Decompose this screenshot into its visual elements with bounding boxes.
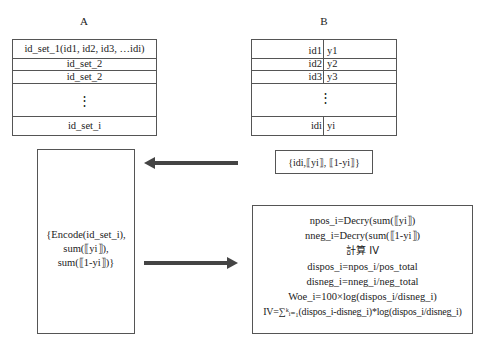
encode-box: {Encode(id_set_i), sum(⟦yi⟧), sum(⟦1-yi⟧… [37, 149, 135, 334]
id-set-row: id_set_2 [13, 71, 156, 84]
label-row: id2 y2 [252, 59, 396, 71]
party-a-label: A [74, 15, 94, 27]
encode-line: sum(⟦1-yi⟧)} [38, 256, 134, 270]
woe-formula: Woe_i=100×log(dispos_i/disneg_i) [253, 289, 472, 304]
label-row: id1 y1 [252, 40, 396, 59]
dispos-formula: dispos_i=npos_i/pos_total [253, 259, 472, 274]
nneg-formula: nneg_i=Decry(sum(⟦1-yi⟧) [253, 228, 472, 243]
id-set-row: id_set_1(id1, id2, id3, …idi) [13, 40, 156, 59]
id-cell: idi [252, 121, 324, 132]
arrow-right-icon [144, 261, 228, 265]
vertical-ellipsis-icon: ⋮ [78, 94, 91, 107]
encrypted-labels-box: {idi,⟦yi⟧, ⟦1-yi⟧} [275, 150, 373, 174]
compute-text: npos_i=Decry(sum(⟦yi⟧) nneg_i=Decry(sum(… [253, 213, 472, 319]
id-set-text: id_set_2 [67, 72, 103, 83]
y-cell: y3 [324, 72, 338, 83]
y-cell: yi [324, 121, 335, 132]
compute-iv-heading: 計算 IV [253, 243, 472, 258]
arrow-left-icon [154, 161, 238, 165]
party-a-id-sets-table: id_set_1(id1, id2, id3, …idi) id_set_2 i… [12, 39, 157, 136]
id-set-text: id_set_i [68, 121, 101, 132]
id-set-text: id_set_1(id1, id2, id3, …idi) [24, 44, 144, 55]
iv-formula: IV=∑ᵏᵢ₌₁(dispos_i-disneg_i)*log(dispos_i… [253, 304, 472, 319]
ellipsis-row: ⋮ [13, 84, 156, 117]
id-set-row: id_set_i [13, 117, 156, 135]
id-cell: id3 [252, 72, 324, 83]
encode-line: {Encode(id_set_i), [38, 228, 134, 242]
iv-compute-box: npos_i=Decry(sum(⟦yi⟧) nneg_i=Decry(sum(… [252, 205, 473, 334]
y-cell: y1 [324, 46, 338, 57]
party-b-label: B [314, 15, 334, 27]
id-set-row: id_set_2 [13, 59, 156, 71]
label-row: id3 y3 [252, 71, 396, 84]
encrypted-labels-text: {idi,⟦yi⟧, ⟦1-yi⟧} [288, 157, 360, 168]
id-cell: id1 [252, 46, 324, 57]
y-cell: y2 [324, 59, 338, 70]
vertical-ellipsis-icon: ⋮ [319, 90, 329, 106]
npos-formula: npos_i=Decry(sum(⟦yi⟧) [253, 213, 472, 228]
encode-line: sum(⟦yi⟧), [38, 242, 134, 256]
id-cell: id2 [252, 59, 324, 70]
id-set-text: id_set_2 [67, 59, 103, 70]
disneg-formula: disneg_i=nneg_i/neg_total [253, 274, 472, 289]
encode-text: {Encode(id_set_i), sum(⟦yi⟧), sum(⟦1-yi⟧… [38, 228, 134, 270]
label-row: idi yi [252, 117, 396, 135]
